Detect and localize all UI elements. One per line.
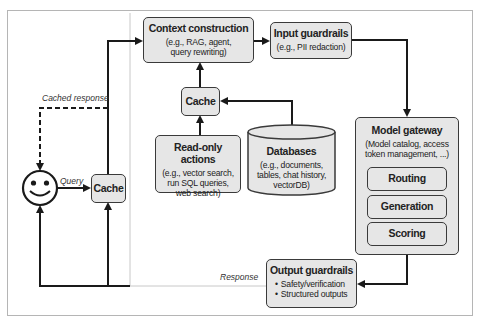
input-guardrails-box: Input guardrails (e.g., PII redaction): [270, 22, 352, 59]
output-guardrails-box: Output guardrails Safety/verification St…: [266, 259, 357, 308]
databases-subtitle-2: tables, chat history,: [248, 170, 335, 180]
context-construction-title: Context construction: [144, 22, 253, 34]
output-guardrails-bullets: Safety/verification Structured outputs: [267, 279, 356, 299]
model-gateway-subtitle-1: (Model catalog, access: [356, 139, 458, 149]
databases-subtitle-3: vectorDB): [248, 180, 335, 190]
cache-top-box: Cache: [181, 87, 220, 116]
databases-subtitle-1: (e.g., documents,: [248, 160, 335, 170]
query-label: Query: [60, 176, 83, 186]
read-only-actions-title: Read-only actions: [156, 141, 240, 165]
cache-left-title: Cache: [92, 182, 125, 194]
model-gateway-subtitle-2: token management, ...): [356, 149, 458, 159]
routing-component: Routing: [367, 167, 447, 191]
context-construction-box: Context construction (e.g., RAG, agent, …: [143, 17, 254, 63]
cached-response-arrow: [40, 108, 108, 169]
databases-to-cache-arrow: [222, 101, 292, 127]
read-only-actions-subtitle-2: run SQL queries,: [156, 178, 240, 188]
gateway-to-output-guardrails-arrow: [359, 255, 407, 284]
output-guardrails-bullet: Safety/verification: [275, 279, 356, 289]
cache-top-title: Cache: [182, 95, 219, 107]
response-label: Response: [220, 272, 258, 282]
context-construction-subtitle-1: (e.g., RAG, agent,: [144, 37, 253, 47]
databases-title: Databases: [248, 145, 335, 157]
cache-left-box: Cache: [91, 174, 126, 203]
output-guardrails-title: Output guardrails: [267, 264, 356, 276]
user-smiley-icon: [23, 171, 57, 205]
databases-label-group: Databases (e.g., documents, tables, chat…: [248, 145, 335, 190]
context-construction-subtitle-2: query rewriting): [144, 47, 253, 57]
model-gateway-box: Model gateway (Model catalog, access tok…: [355, 117, 459, 255]
cached-response-label: Cached response: [42, 93, 109, 103]
cache-to-context-arrow: [108, 41, 141, 174]
read-only-actions-subtitle-3: web search): [156, 188, 240, 198]
input-guardrails-title: Input guardrails: [271, 27, 351, 39]
input-guardrails-to-gateway-arrow: [352, 40, 407, 115]
output-guardrails-bullet: Structured outputs: [275, 289, 356, 299]
model-gateway-title: Model gateway: [356, 124, 458, 136]
read-only-actions-subtitle-1: (e.g., vector search,: [156, 168, 240, 178]
scoring-component: Scoring: [367, 222, 447, 246]
read-only-actions-box: Read-only actions (e.g., vector search, …: [155, 135, 241, 193]
generation-component: Generation: [367, 195, 447, 219]
input-guardrails-subtitle: (e.g., PII redaction): [271, 42, 351, 52]
response-to-user-arrow: [40, 207, 130, 286]
